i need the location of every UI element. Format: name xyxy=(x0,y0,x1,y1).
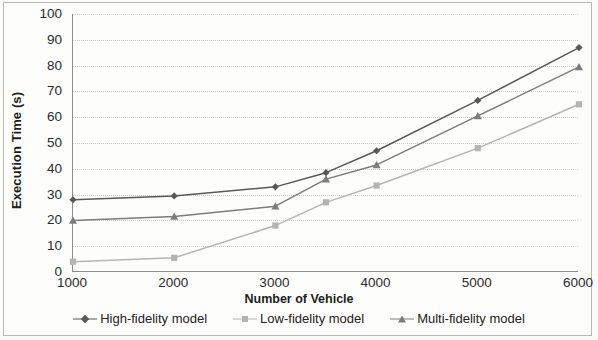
legend-marker-diamond-icon xyxy=(73,313,97,325)
y-axis-tick-label: 30 xyxy=(2,188,62,202)
data-point-marker xyxy=(272,222,278,228)
chart-legend: High-fidelity modelLow-fidelity modelMul… xyxy=(0,311,598,326)
x-axis-tick-label: 4000 xyxy=(361,275,391,290)
y-axis-tick-label: 70 xyxy=(2,85,62,99)
data-point-marker xyxy=(171,255,177,261)
y-axis-tick-label: 90 xyxy=(2,33,62,47)
x-axis-tick-label: 2000 xyxy=(158,275,188,290)
y-axis-tick-label: 60 xyxy=(2,110,62,124)
series-line xyxy=(73,104,579,261)
y-axis-tick-label: 40 xyxy=(2,162,62,176)
data-point-marker xyxy=(323,199,329,205)
y-axis-tick-label: 50 xyxy=(2,136,62,150)
x-axis-tick-label: 3000 xyxy=(259,275,289,290)
x-axis-tick-label: 5000 xyxy=(462,275,492,290)
series-square xyxy=(70,101,582,265)
legend-item-square[interactable]: Low-fidelity model xyxy=(233,311,364,326)
data-point-marker xyxy=(373,161,381,168)
data-point-marker xyxy=(474,112,482,119)
y-axis-tick-labels: 0102030405060708090100 xyxy=(0,14,66,272)
data-point-marker xyxy=(171,192,178,199)
y-axis-tick-label: 10 xyxy=(2,239,62,253)
legend-label: Low-fidelity model xyxy=(260,311,364,326)
x-axis-tick-label: 6000 xyxy=(563,275,593,290)
legend-label: Multi-fidelity model xyxy=(417,311,525,326)
x-axis-title: Number of Vehicle xyxy=(0,292,598,306)
data-point-marker xyxy=(474,97,481,104)
plot-area xyxy=(72,14,578,272)
data-point-marker xyxy=(374,182,380,188)
y-axis-tick-label: 0 xyxy=(2,265,62,279)
y-axis-tick-label: 20 xyxy=(2,214,62,228)
legend-item-diamond[interactable]: High-fidelity model xyxy=(73,311,207,326)
legend-item-triangle[interactable]: Multi-fidelity model xyxy=(390,311,525,326)
y-axis-tick-label: 80 xyxy=(2,59,62,73)
legend-marker-square-icon xyxy=(233,313,257,325)
data-point-marker xyxy=(70,259,76,265)
data-point-marker xyxy=(272,183,279,190)
legend-label: High-fidelity model xyxy=(100,311,207,326)
data-point-marker xyxy=(475,145,481,151)
series-layer xyxy=(73,14,579,272)
y-axis-tick-label: 100 xyxy=(2,7,62,21)
data-point-marker xyxy=(373,147,380,154)
data-point-marker xyxy=(576,101,582,107)
x-axis-tick-label: 1000 xyxy=(57,275,87,290)
legend-marker-triangle-icon xyxy=(390,313,414,325)
